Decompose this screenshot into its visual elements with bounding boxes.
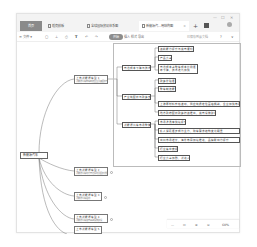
menu-tabs[interactable]: 插入 样式 导出 — [124, 34, 144, 40]
tab-ev-structure[interactable]: 新能源汽...用结构图× — [139, 21, 189, 31]
tab-templates[interactable]: 稻壳模板 — [45, 21, 81, 31]
close-tab-icon[interactable]: × — [183, 21, 186, 31]
account-icon[interactable] — [204, 23, 209, 28]
print-icon[interactable]: ⎙ — [65, 34, 68, 40]
zoom-out-icon[interactable]: ⊖ — [207, 222, 210, 228]
undo-icon[interactable]: ↶ — [85, 34, 88, 40]
level3-node[interactable]: 出口市场增长，海外布局加速推进，品牌影响力提升 — [158, 137, 240, 143]
level3-node[interactable]: 产品竞争力 — [158, 55, 172, 61]
node-subtitle: 新能源汽车驱动 — [76, 197, 100, 200]
node-subtitle: 新能源汽车整车制造企业及其配套产业链情况 — [76, 80, 106, 83]
format-painter-icon[interactable]: T — [75, 34, 77, 40]
zoom-percent[interactable]: 60% — [222, 222, 229, 228]
level2-node[interactable]: 新能源汽车市场整体发展 — [122, 122, 151, 128]
minimap-toggle-icon[interactable]: — — [171, 222, 174, 228]
tab-label: 全球国际贸易体系图 — [91, 24, 118, 28]
new-tab-button[interactable]: + — [193, 21, 198, 31]
file-menu[interactable]: ≡ 文件 ▾ — [19, 34, 32, 40]
level3-node[interactable]: 地方政府配套政策持续推出，充电设施建设提速 — [158, 110, 216, 116]
level1-node[interactable]: 上市新能源车型 4 新能源汽车充电基础设施建设 — [74, 214, 108, 223]
root-node[interactable]: 新能源汽车 — [20, 152, 48, 159]
level3-node[interactable]: 整车制造能力提升 — [158, 86, 176, 92]
expand-toggle-icon[interactable] — [110, 218, 113, 221]
toolbar: ≡ 文件 ▾ ▢ ⊥ ⎙ T ↶ ↷ 开始 插入 样式 导出 已保存到云文档 ?… — [17, 32, 239, 42]
expand-icon[interactable]: ∨ — [231, 34, 234, 40]
save-status: 已保存到云文档 — [187, 34, 208, 40]
node-subtitle: 新能源汽车充电基础设施建设 — [76, 219, 106, 222]
zoom-controls: — ⊡ ⊕ ⊖ 60% — [167, 219, 239, 228]
tab-label: 首页 — [28, 24, 34, 28]
level3-node[interactable]: 上游原材料价格波动，供应链稳定性面临挑战，企业加快布局上游资源 — [158, 101, 240, 107]
maximize-button[interactable]: ☐ — [221, 15, 225, 20]
tab-label: 新能源汽...用结构图 — [146, 24, 173, 28]
tab-bar: — ☐ ✕ 首页 稻壳模板 全球国际贸易体系图 新能源汽...用结构图× + — [17, 14, 239, 32]
level3-node[interactable]: 私人消费逐步成为主力，购车需求结构变化明显 — [158, 128, 240, 134]
mindmap-icon — [142, 24, 145, 28]
level3-node[interactable]: 续航能力提升与充电便利性需求 — [158, 46, 194, 52]
settings-icon[interactable] — [227, 22, 232, 27]
tab-label: 稻壳模板 — [52, 24, 64, 28]
expand-toggle-icon[interactable] — [104, 196, 107, 199]
level1-node[interactable]: 上市新能源车型 1 新能源汽车整车制造企业及其配套产业链情况 — [74, 75, 108, 84]
mindmap-canvas[interactable]: 新能源汽车 上市新能源车型 1 新能源汽车整车制造企业及其配套产业链情况 上市新… — [17, 43, 239, 234]
help-icon[interactable]: ? — [220, 34, 222, 40]
level3-node[interactable]: 政策补贴逐步退坡 — [158, 78, 176, 84]
expand-toggle-icon[interactable] — [110, 171, 113, 174]
save-icon[interactable]: ▢ — [45, 34, 48, 40]
level1-node[interactable]: 上市新能源车型 2 新能源汽车动力电池系统及配套发展情况 — [74, 167, 108, 176]
level2-node[interactable]: 电池成本下降与技术进步 — [122, 65, 151, 71]
tab-home[interactable]: 首页 — [20, 21, 42, 31]
document-icon — [48, 24, 51, 28]
level3-node[interactable]: 电池成本占整车成本比例逐年下降，技术迭代加快 — [158, 64, 198, 74]
fit-screen-icon[interactable]: ⊡ — [183, 222, 186, 228]
node-subtitle: 新能源汽车动力电池系统及配套发展情况 — [76, 172, 106, 175]
level3-node[interactable]: 行业集中度提升 — [158, 146, 178, 152]
app-window: — ☐ ✕ 首页 稻壳模板 全球国际贸易体系图 新能源汽...用结构图× + ≡… — [16, 13, 240, 233]
close-window-button[interactable]: ✕ — [230, 15, 233, 20]
zoom-in-icon[interactable]: ⊕ — [195, 222, 198, 228]
level2-node[interactable]: 产业链配套与政策支持 — [122, 94, 151, 100]
level1-node[interactable]: 上市新能源车型 3 新能源汽车驱动 — [74, 192, 102, 201]
start-tab-badge[interactable]: 开始 — [109, 34, 123, 40]
redo-icon[interactable]: ↷ — [95, 34, 98, 40]
node-title: 上市新能源车型 5 — [76, 228, 100, 231]
upload-icon[interactable]: ⊥ — [55, 34, 58, 40]
level3-node[interactable]: 行业竞争加剧，新进入者不断涌现 — [158, 155, 190, 161]
level1-node[interactable]: 上市新能源车型 5 — [74, 226, 102, 234]
minimize-button[interactable]: — — [213, 15, 217, 20]
tab-trade-diagram[interactable]: 全球国际贸易体系图 — [84, 21, 134, 31]
level3-node[interactable]: 市场渗透率快速提升，消费认知 — [158, 119, 186, 125]
mindmap-icon — [87, 24, 90, 28]
